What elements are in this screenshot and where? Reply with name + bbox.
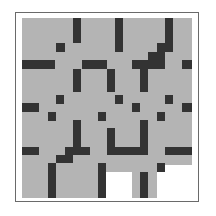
wall-block <box>107 128 115 155</box>
wall-block <box>157 43 173 52</box>
wall-block <box>132 103 140 112</box>
wall-block <box>56 155 73 163</box>
wall-block <box>98 163 106 198</box>
wall-block <box>132 60 165 69</box>
wall-block <box>157 163 165 172</box>
wall-block <box>48 112 56 121</box>
wall-block <box>56 95 64 104</box>
wall-block <box>107 69 115 92</box>
wall-block <box>148 52 165 60</box>
wall-block <box>140 69 148 92</box>
maze-board <box>0 0 216 216</box>
wall-block <box>65 147 90 155</box>
wall-block <box>98 112 106 121</box>
floor-region <box>22 165 106 198</box>
wall-block <box>140 172 148 198</box>
wall-block <box>82 60 107 69</box>
wall-block <box>22 60 55 69</box>
wall-block <box>165 95 173 104</box>
wall-block <box>22 147 39 155</box>
floor-region <box>106 165 157 172</box>
wall-block <box>140 120 148 155</box>
wall-block <box>115 147 140 155</box>
wall-block <box>182 103 192 112</box>
wall-block <box>182 60 192 69</box>
wall-block <box>73 69 81 92</box>
wall-block <box>165 147 192 155</box>
wall-block <box>157 112 165 121</box>
wall-block <box>115 95 123 104</box>
wall-block <box>73 18 81 43</box>
wall-block <box>48 163 56 198</box>
wall-block <box>22 103 39 112</box>
wall-block <box>115 18 123 52</box>
wall-block <box>56 43 65 52</box>
